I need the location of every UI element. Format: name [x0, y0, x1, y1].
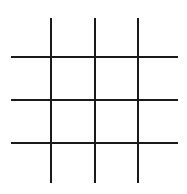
board-cell[interactable]: [139, 18, 178, 56]
board-cell[interactable]: [11, 18, 50, 56]
board-cell[interactable]: [139, 144, 178, 183]
board-cell[interactable]: [96, 144, 137, 183]
board-cell[interactable]: [11, 58, 50, 99]
game-board: [0, 0, 187, 194]
board-cell[interactable]: [52, 18, 94, 56]
board-cell[interactable]: [52, 101, 94, 142]
board-cell[interactable]: [96, 18, 137, 56]
board-cell[interactable]: [52, 58, 94, 99]
board-cell[interactable]: [139, 101, 178, 142]
board-cell[interactable]: [96, 58, 137, 99]
board-cell[interactable]: [11, 144, 50, 183]
board-cell[interactable]: [11, 101, 50, 142]
board-cell[interactable]: [52, 144, 94, 183]
board-cell[interactable]: [139, 58, 178, 99]
board-cell[interactable]: [96, 101, 137, 142]
